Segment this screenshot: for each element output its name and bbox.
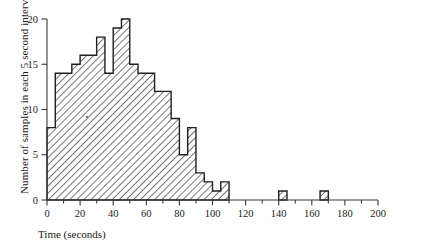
x-tick-label: 140 <box>271 208 287 219</box>
x-tick-label: 180 <box>337 208 353 219</box>
x-tick-label: 80 <box>174 208 185 219</box>
x-tick-labels: 020406080100120140160180200 <box>44 208 386 219</box>
plot-speck <box>86 116 88 118</box>
y-tick-label: 20 <box>28 14 39 25</box>
bars-group <box>47 19 328 200</box>
histogram-bar-run-2 <box>320 191 328 200</box>
x-tick-label: 0 <box>44 208 49 219</box>
x-tick-label: 40 <box>108 208 119 219</box>
histogram-chart: Number of samples in each 5 second inter… <box>0 0 425 252</box>
y-tick-labels: 05101520 <box>28 14 39 206</box>
x-tick-label: 60 <box>141 208 152 219</box>
y-tick-label: 15 <box>28 59 39 70</box>
x-tick-label: 160 <box>304 208 320 219</box>
x-tick-label: 20 <box>75 208 86 219</box>
y-tick-label: 0 <box>33 195 38 206</box>
plot-area: 020406080100120140160180200 05101520 <box>0 0 425 252</box>
histogram-bar-run-0 <box>47 19 229 200</box>
y-tick-label: 10 <box>28 104 39 115</box>
y-tick-label: 5 <box>33 149 38 160</box>
x-tick-label: 120 <box>238 208 254 219</box>
x-tick-label: 200 <box>370 208 386 219</box>
histogram-bar-run-1 <box>279 191 287 200</box>
x-tick-label: 100 <box>205 208 221 219</box>
